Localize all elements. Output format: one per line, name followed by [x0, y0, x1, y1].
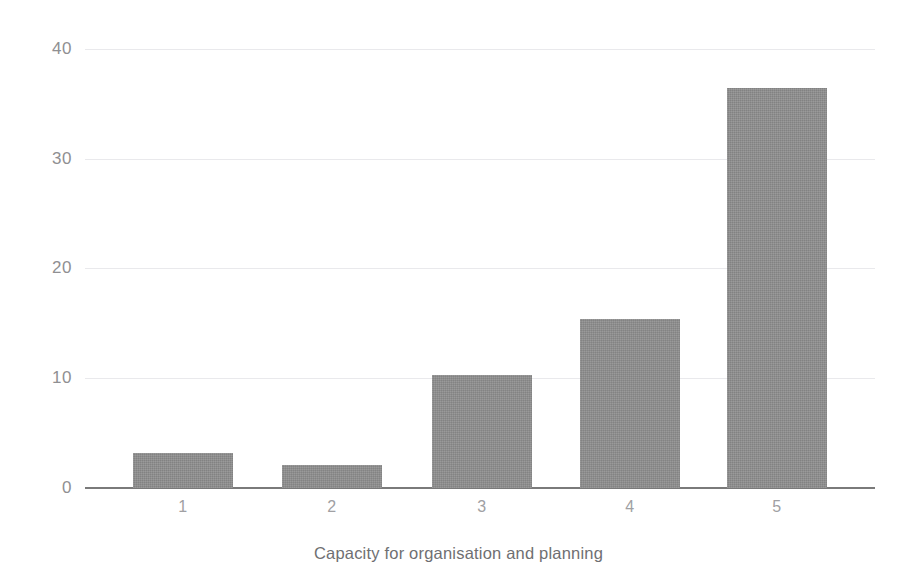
x-tick-label-5: 5: [727, 498, 827, 516]
y-tick-label-20: 20: [28, 258, 72, 278]
bar-category-4[interactable]: [580, 319, 680, 488]
x-tick-label-3: 3: [432, 498, 532, 516]
y-tick-label-40: 40: [28, 39, 72, 59]
y-tick-label-30: 30: [28, 149, 72, 169]
x-tick-label-1: 1: [133, 498, 233, 516]
bar-category-1[interactable]: [133, 453, 233, 488]
y-tick-label-0: 0: [28, 478, 72, 498]
x-axis-title: Capacity for organisation and planning: [0, 544, 917, 563]
bar-category-5[interactable]: [727, 88, 827, 488]
bar-chart: 40 30 20 10 0 1 2 3 4 5 Capacity for org…: [0, 0, 917, 578]
x-tick-label-2: 2: [282, 498, 382, 516]
bar-category-2[interactable]: [282, 465, 382, 488]
y-tick-label-10: 10: [28, 368, 72, 388]
x-tick-label-4: 4: [580, 498, 680, 516]
bar-category-3[interactable]: [432, 375, 532, 488]
y-axis-tick-labels: 40 30 20 10 0: [0, 40, 72, 488]
bars-layer: [85, 40, 875, 488]
